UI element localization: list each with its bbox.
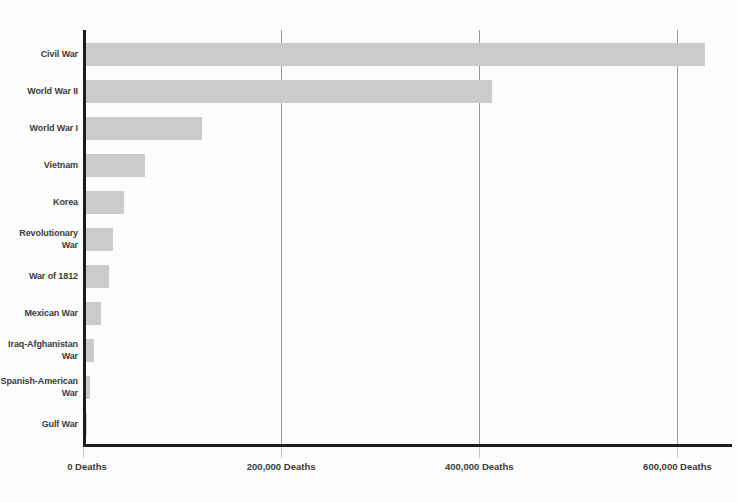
chart-row xyxy=(86,406,730,443)
category-label-gulf-war: Gulf War xyxy=(42,419,78,431)
category-label-row: Gulf War xyxy=(0,406,78,443)
bars-group xyxy=(86,30,730,444)
category-label-iraq-afghanistan-war: Iraq-Afghanistan War xyxy=(8,339,78,362)
x-tick-mark-400000 xyxy=(479,447,480,458)
x-tick-label-200000: 200,000 Deaths xyxy=(247,461,316,472)
category-labels-column: Civil WarWorld War IIWorld War IVietnamK… xyxy=(0,30,78,443)
bar-world-war-i xyxy=(86,117,202,140)
category-label-row: Korea xyxy=(0,184,78,221)
x-tick-mark-600000 xyxy=(677,447,678,458)
bar-vietnam xyxy=(86,154,145,177)
category-label-mexican-war: Mexican War xyxy=(24,308,78,320)
category-label-row: Vietnam xyxy=(0,147,78,184)
category-label-row: Spanish-American War xyxy=(0,369,78,406)
category-label-row: Civil War xyxy=(0,36,78,73)
category-label-row: Iraq-Afghanistan War xyxy=(0,332,78,369)
category-label-war-of-1812: War of 1812 xyxy=(29,271,78,283)
bar-war-of-1812 xyxy=(86,265,109,288)
bar-civil-war xyxy=(86,43,705,66)
x-tick-label-400000: 400,000 Deaths xyxy=(445,461,514,472)
x-tick-label-600000: 600,000 Deaths xyxy=(643,461,712,472)
chart-row xyxy=(86,258,730,295)
bar-mexican-war xyxy=(86,302,101,325)
chart-row xyxy=(86,369,730,406)
chart-row xyxy=(86,184,730,221)
x-tick-mark-200000 xyxy=(281,447,282,458)
bar-korea xyxy=(86,191,124,214)
plot-area xyxy=(86,30,730,444)
bar-iraq-afghanistan-war xyxy=(86,339,94,362)
category-label-row: World War II xyxy=(0,73,78,110)
chart-row xyxy=(86,73,730,110)
chart-row xyxy=(86,332,730,369)
category-label-spanish-american-war: Spanish-American War xyxy=(1,376,78,399)
category-label-world-war-ii: World War II xyxy=(27,86,78,98)
chart-row xyxy=(86,110,730,147)
category-label-row: Revolutionary War xyxy=(0,221,78,258)
category-label-row: World War I xyxy=(0,110,78,147)
bar-revolutionary-war xyxy=(86,228,113,251)
x-axis-line xyxy=(83,444,732,447)
category-label-vietnam: Vietnam xyxy=(44,160,78,172)
category-label-world-war-i: World War I xyxy=(30,123,78,135)
bar-spanish-american-war xyxy=(86,376,90,399)
x-tick-mark-0 xyxy=(83,447,84,458)
chart-row xyxy=(86,36,730,73)
category-label-revolutionary-war: Revolutionary War xyxy=(19,228,78,251)
bar-world-war-ii xyxy=(86,80,492,103)
category-label-korea: Korea xyxy=(53,197,78,209)
category-label-row: War of 1812 xyxy=(0,258,78,295)
chart-row xyxy=(86,295,730,332)
category-label-civil-war: Civil War xyxy=(41,49,78,61)
war-deaths-bar-chart: Civil WarWorld War IIWorld War IVietnamK… xyxy=(0,0,737,503)
chart-row xyxy=(86,147,730,184)
category-label-row: Mexican War xyxy=(0,295,78,332)
x-tick-label-0: 0 Deaths xyxy=(67,461,107,472)
chart-row xyxy=(86,221,730,258)
